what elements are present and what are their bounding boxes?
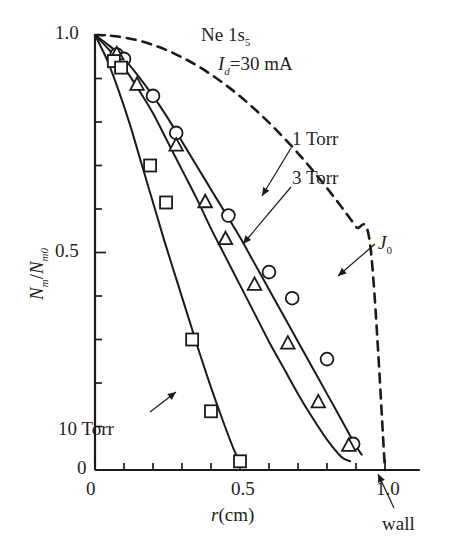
series-markers-3-torr (219, 232, 233, 245)
annotation-10-torr: 10 Torr (58, 418, 114, 440)
series-markers-1-torr (147, 90, 160, 103)
series-markers-1-torr (222, 209, 235, 222)
series-markers-3-torr (198, 195, 212, 208)
series-markers-10-torr (160, 196, 172, 208)
x-axis-label: r(cm) (211, 504, 254, 526)
series-markers-10-torr (115, 62, 127, 74)
leader-1-torr (262, 148, 291, 196)
annotation-j0: J0 (378, 232, 392, 256)
plot-svg (0, 0, 467, 560)
x-tick-label: 0.5 (231, 478, 255, 500)
y-tick-label: 0 (77, 457, 87, 479)
series-curve-10-torr (95, 35, 240, 461)
series-markers-10-torr (186, 334, 198, 346)
series-markers-3-torr (248, 277, 262, 290)
y-tick-label: 0.5 (55, 240, 79, 262)
marker-group (108, 47, 360, 467)
curve-group (95, 35, 385, 470)
series-markers-10-torr (234, 455, 246, 467)
figure-panel: 00.51.0 00.51.0 Ne 1s5 Id=30 mA 1 Torr 3… (0, 0, 467, 560)
x-tick-label: 1.0 (376, 478, 400, 500)
series-curve-j0 (95, 35, 385, 470)
series-markers-10-torr (205, 405, 217, 417)
series-markers-1-torr (286, 292, 299, 305)
series-markers-1-torr (263, 266, 276, 279)
series-markers-1-torr (321, 353, 334, 366)
x-tick-label: 0 (86, 478, 96, 500)
series-markers-3-torr (281, 336, 295, 349)
series-curve-3-torr (95, 35, 350, 461)
title-species: Ne 1s5 (201, 24, 250, 48)
series-markers-3-torr (312, 395, 326, 408)
title-current: Id=30 mA (218, 53, 293, 77)
y-axis-label: Nm/Nm0 (26, 248, 50, 300)
annotation-1-torr: 1 Torr (292, 128, 338, 150)
leader-10-torr-arrowhead (167, 392, 176, 400)
y-tick-label: 1.0 (55, 22, 79, 44)
leader-group (150, 148, 394, 508)
leader-1-torr-arrowhead (262, 187, 269, 196)
series-markers-10-torr (144, 160, 156, 172)
leader-3-torr (243, 187, 291, 244)
annotation-wall: wall (382, 513, 415, 535)
annotation-3-torr: 3 Torr (292, 167, 338, 189)
